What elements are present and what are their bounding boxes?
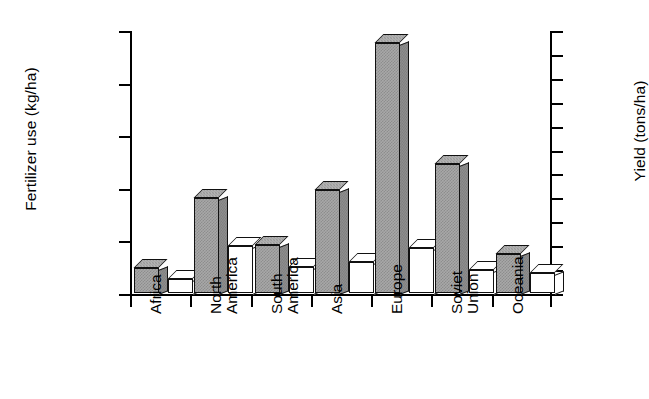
bar-top-face (375, 34, 409, 43)
y-axis-right-tick (550, 79, 563, 81)
x-axis-category-label: SouthAmerica (269, 257, 301, 314)
bar-fertilizer-asia (315, 190, 340, 293)
bar-yield-oceania (530, 273, 555, 293)
y-axis-left-tick (119, 84, 132, 86)
x-axis-label-line: America (284, 257, 300, 314)
bar-top-face (314, 181, 348, 190)
bar-yield-europe (409, 248, 434, 293)
x-axis-category-label: Asia (329, 284, 345, 314)
bar-front-face (409, 248, 434, 293)
y-axis-right-line (550, 32, 552, 296)
y-axis-left-tick (119, 136, 132, 138)
x-axis-tick (550, 296, 552, 307)
bar-side-face (400, 41, 409, 295)
x-axis-tick (431, 296, 433, 307)
bar-front-face (315, 190, 340, 293)
x-axis-label-line: North (208, 257, 224, 314)
bar-yield-africa (168, 279, 193, 293)
y-axis-right-tick (550, 174, 563, 176)
bar-top-face (435, 155, 469, 164)
bar-front-face (530, 273, 555, 293)
x-axis-tick (311, 296, 313, 307)
plot-area: 050100150200250 0246810121416182022 Afri… (130, 32, 552, 295)
y-axis-right-tick (550, 55, 563, 57)
y-axis-right-tick (550, 246, 563, 248)
x-axis-label-line: Asia (329, 284, 345, 314)
x-axis-category-label: Africa (148, 274, 164, 314)
bar-front-face (168, 279, 193, 293)
bar-fertilizer-europe (375, 43, 400, 293)
y-axis-right-tick (550, 198, 563, 200)
chart-figure: Fertilizer use (kg/ha) Yield (tons/ha) 0… (0, 0, 649, 399)
x-axis-label-line: Union (465, 271, 481, 314)
y-axis-right-title: Yield (tons/ha) (631, 16, 649, 246)
x-axis-tick (130, 296, 132, 307)
y-axis-left-title: Fertilizer use (kg/ha) (22, 24, 40, 254)
bar-top-face (495, 245, 529, 254)
x-axis-category-label: SovietUnion (449, 271, 481, 314)
bar-side-face (555, 271, 564, 295)
bar-top-face (134, 259, 168, 268)
x-axis-label-line: Oceania (510, 256, 526, 314)
y-axis-left-tick (119, 241, 132, 243)
x-axis-tick (371, 296, 373, 307)
x-axis-tick (251, 296, 253, 307)
y-axis-right-tick (550, 222, 563, 224)
x-axis-label-line: South (269, 257, 285, 314)
y-axis-right-tick (550, 127, 563, 129)
x-axis-tick (492, 296, 494, 307)
x-axis-label-line: Africa (148, 274, 164, 314)
y-axis-right-tick (550, 31, 563, 33)
y-axis-right-tick (550, 103, 563, 105)
bar-side-face (340, 188, 349, 294)
x-axis-category-label: NorthAmerica (208, 257, 240, 314)
bar-front-face (349, 262, 374, 293)
x-axis-label-line: America (224, 257, 240, 314)
x-axis-category-label: Oceania (510, 256, 526, 314)
x-axis-label-line: Soviet (449, 271, 465, 314)
y-axis-right-tick (550, 151, 563, 153)
bar-yield-asia (349, 262, 374, 293)
y-axis-left-tick (119, 31, 132, 33)
y-axis-left-line (130, 32, 132, 296)
bar-front-face (375, 43, 400, 293)
y-axis-left-tick (119, 189, 132, 191)
x-axis-category-label: Europe (389, 264, 405, 314)
x-axis-tick (190, 296, 192, 307)
x-axis-label-line: Europe (389, 264, 405, 314)
